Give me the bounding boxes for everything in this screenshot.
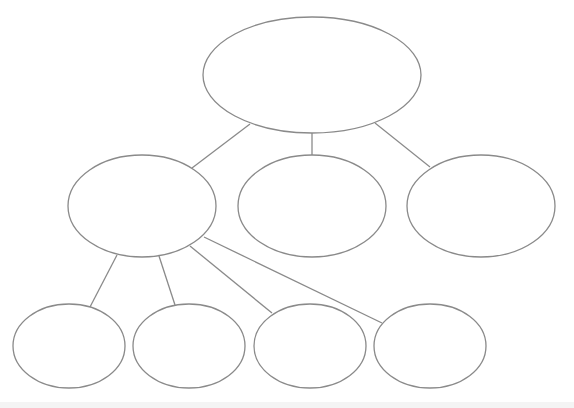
node-level2-3 [254,304,366,388]
ellipse-level2-3 [254,304,366,388]
node-level2-4 [374,304,486,388]
ellipse-level2-2 [133,304,245,388]
node-level1-left [68,155,216,257]
ellipse-level1-center [238,155,386,257]
node-level2-1 [13,304,125,388]
diagram-nodes [13,17,555,388]
connector-root-level1-right [375,123,430,167]
node-level1-right [407,155,555,257]
ellipse-level1-right [407,155,555,257]
ellipse-level1-left [68,155,216,257]
node-level1-center [238,155,386,257]
node-level2-2 [133,304,245,388]
connector-level1-left-level2-3 [190,246,272,313]
bottom-band [0,402,574,408]
hierarchy-diagram [0,0,574,408]
connector-level1-left-level2-2 [159,256,175,305]
ellipse-level2-1 [13,304,125,388]
ellipse-root [203,17,421,133]
ellipse-level2-4 [374,304,486,388]
connector-level1-left-level2-1 [90,255,117,307]
node-root [203,17,421,133]
connector-root-level1-left [192,124,250,168]
